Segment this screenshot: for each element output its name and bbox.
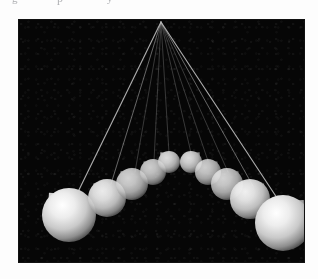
pendulum-string	[161, 22, 191, 153]
pendulum-sphere	[158, 151, 180, 173]
remnant-glyph-1: g	[12, 0, 18, 4]
scan-text-remnant: g p y	[0, 0, 318, 13]
string-group	[75, 22, 281, 204]
pendulum-scene	[19, 20, 304, 262]
remnant-glyph-3: y	[107, 0, 113, 4]
pendulum-string	[161, 22, 228, 172]
page-canvas: g p y	[0, 0, 318, 279]
render-image-panel	[19, 20, 304, 262]
remnant-glyph-2: p	[57, 0, 63, 4]
sphere-body	[42, 188, 96, 242]
sphere-body	[158, 151, 180, 173]
sphere-group	[42, 151, 304, 251]
pendulum-sphere	[42, 188, 96, 242]
